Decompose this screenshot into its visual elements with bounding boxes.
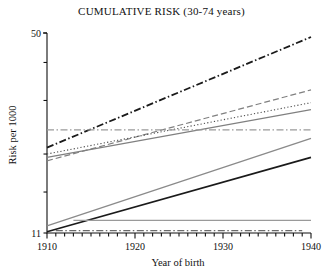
series-line-series-6 <box>47 138 311 226</box>
axes-group <box>43 33 311 239</box>
svg-text:11: 11 <box>31 228 41 239</box>
series-group <box>47 37 311 232</box>
tick-labels-group: 11501910192019301940 <box>31 28 321 252</box>
series-line-series-3 <box>47 103 311 154</box>
series-line-series-1 <box>47 37 311 148</box>
series-line-series-4 <box>47 110 311 158</box>
svg-text:1920: 1920 <box>125 241 145 252</box>
chart-plot-area: 11501910192019301940 Year of birth Risk … <box>0 0 323 272</box>
x-axis-label: Year of birth <box>151 257 205 268</box>
svg-text:50: 50 <box>31 28 41 39</box>
y-axis-label: Risk per 1000 <box>7 106 18 165</box>
svg-text:1940: 1940 <box>301 241 321 252</box>
svg-text:1930: 1930 <box>213 241 233 252</box>
svg-text:1910: 1910 <box>37 241 57 252</box>
chart-figure: CUMULATIVE RISK (30-74 years) 1150191019… <box>0 0 323 272</box>
